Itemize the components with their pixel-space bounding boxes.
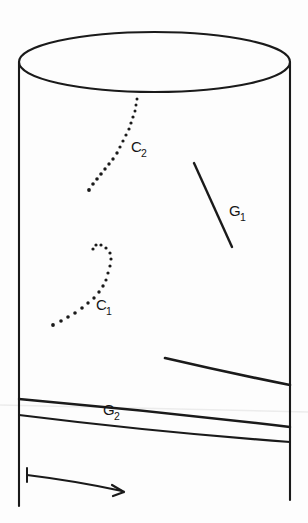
label-g2: G 2: [103, 401, 120, 422]
geodesic-curve-g2-right-branch: [165, 358, 290, 385]
label-c1: C 1: [96, 296, 112, 317]
label-g2-sub: 2: [114, 410, 120, 422]
cylinder-top-ellipse: [19, 32, 290, 92]
geodesic-curve-g2-upper: [19, 399, 290, 427]
figure-container: C 2 G 1 C 1 G 2: [0, 0, 308, 523]
label-c2: C 2: [131, 138, 147, 159]
geodesic-segment-g1: [194, 163, 232, 247]
label-g1-sub: 1: [240, 211, 246, 223]
label-c1-sub: 1: [106, 305, 112, 317]
label-g1-base: G: [229, 202, 241, 219]
label-c2-sub: 2: [141, 147, 147, 159]
label-g2-base: G: [103, 401, 115, 418]
cylinder-diagram: C 2 G 1 C 1 G 2: [0, 0, 308, 523]
geodesic-curve-g2-lower: [19, 415, 290, 442]
direction-arrow-shaft: [27, 475, 122, 491]
dotted-curve-c1: [51, 243, 113, 327]
label-g1: G 1: [229, 202, 246, 223]
